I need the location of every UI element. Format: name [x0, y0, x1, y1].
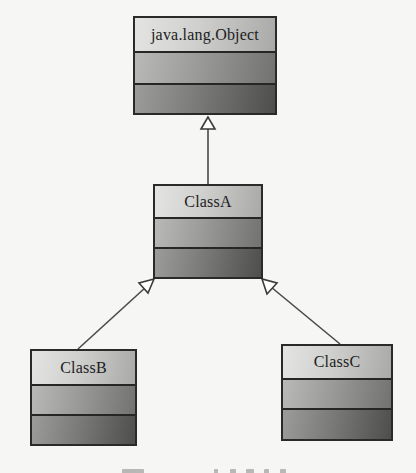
class-box-classb[interactable]: ClassB	[30, 349, 137, 446]
attributes-compartment	[155, 219, 261, 249]
class-box-classc[interactable]: ClassC	[281, 344, 393, 441]
class-name-compartment: java.lang.Object	[135, 18, 275, 53]
edge-classb-to-classa	[78, 279, 154, 349]
operations-compartment	[283, 410, 391, 439]
attributes-compartment	[135, 53, 275, 85]
edge-classa-to-object	[201, 117, 215, 184]
class-name-compartment: ClassB	[32, 351, 135, 386]
attributes-compartment	[283, 380, 391, 410]
attributes-compartment	[32, 386, 135, 416]
class-name-compartment: ClassC	[283, 346, 391, 380]
class-name: ClassA	[184, 193, 231, 211]
generalization-arrowhead-icon	[262, 279, 277, 294]
truncated-caption	[122, 469, 302, 473]
class-name: ClassB	[60, 359, 107, 377]
operations-compartment	[32, 416, 135, 444]
class-box-object[interactable]: java.lang.Object	[133, 16, 277, 115]
class-name-compartment: ClassA	[155, 186, 261, 219]
operations-compartment	[135, 85, 275, 113]
class-name: ClassC	[314, 353, 361, 371]
class-name: java.lang.Object	[151, 26, 259, 44]
edge-classc-to-classa	[262, 279, 340, 344]
operations-compartment	[155, 249, 261, 277]
class-box-classa[interactable]: ClassA	[153, 184, 263, 279]
uml-diagram-canvas: java.lang.Object ClassA ClassB ClassC	[0, 0, 416, 473]
generalization-arrowhead-icon	[201, 117, 215, 129]
